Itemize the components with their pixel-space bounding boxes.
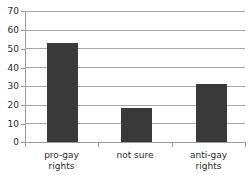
category-label-line-1: not sure bbox=[98, 150, 172, 161]
xtick-sep-1 bbox=[98, 142, 99, 147]
category-label-line-1: pro-gay bbox=[25, 150, 98, 161]
x-axis-line bbox=[25, 142, 246, 143]
bar-anti-gay-rights bbox=[196, 84, 227, 142]
category-label-pro-gay-rights: pro-gay rights bbox=[25, 150, 98, 172]
ytick-label-60: 60 bbox=[0, 26, 19, 35]
category-label-line-1: anti-gay bbox=[172, 150, 245, 161]
ytick-label-40: 40 bbox=[0, 64, 19, 73]
ytick-label-30: 30 bbox=[0, 82, 19, 91]
ytick-label-50: 50 bbox=[0, 45, 19, 54]
gridline-60 bbox=[25, 30, 245, 31]
bar-chart: 70 60 50 40 30 20 10 0 bbox=[0, 0, 252, 175]
plot-area bbox=[25, 11, 245, 142]
ytick-label-20: 20 bbox=[0, 101, 19, 110]
ytick-label-70: 70 bbox=[0, 7, 19, 16]
category-label-not-sure: not sure bbox=[98, 150, 172, 161]
category-label-anti-gay-rights: anti-gay rights bbox=[172, 150, 245, 172]
category-label-line-2: rights bbox=[25, 161, 98, 172]
gridline-70 bbox=[25, 11, 245, 12]
xtick-sep-2 bbox=[172, 142, 173, 147]
ytick-label-10: 10 bbox=[0, 120, 19, 129]
xtick-right-edge bbox=[245, 142, 246, 147]
category-label-line-2: rights bbox=[172, 161, 245, 172]
bar-not-sure bbox=[121, 108, 152, 142]
bar-pro-gay-rights bbox=[47, 43, 78, 142]
xtick-left-edge bbox=[25, 142, 26, 147]
ytick-label-0: 0 bbox=[0, 138, 19, 147]
